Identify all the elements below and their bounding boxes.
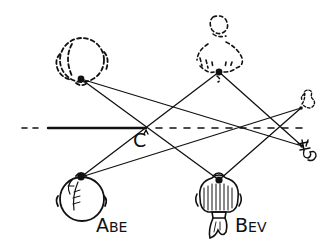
sight-line-abe-image-to-bev [81, 79, 219, 180]
sight-lines [81, 72, 302, 180]
bev-label: BEV [235, 214, 267, 236]
sight-line-abe-to-small-figure-image [81, 108, 301, 177]
small-figure-reflected [301, 90, 314, 108]
bev-eye-dot [215, 176, 222, 183]
small-figure-dot [300, 144, 304, 148]
abe-label-rest: BE [109, 219, 127, 235]
mirror-diagram: C ABE BEV [0, 0, 334, 245]
sight-line-bev-image-to-abe [81, 72, 219, 177]
abe-eye-dot [77, 173, 84, 180]
abe-label-initial: A [96, 214, 109, 236]
sight-line-bev-image-to-small-figure [219, 72, 302, 146]
abe-label: ABE [96, 214, 127, 236]
point-c-label: C [133, 129, 146, 151]
bev-reflected-eye-dot [216, 69, 223, 76]
sight-line-bev-to-small-figure-image [219, 108, 301, 180]
small-figure [298, 140, 316, 161]
abe-reflected-eye-dot [78, 76, 85, 83]
bev-label-rest: EV [248, 219, 267, 235]
bev-label-initial: B [235, 214, 248, 236]
small-figure-reflected-dot [299, 106, 303, 110]
